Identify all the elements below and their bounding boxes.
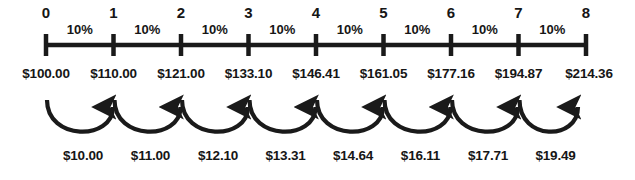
balance-label-1: $110.00 — [90, 66, 137, 81]
growth-arrow-3 — [182, 100, 248, 132]
rate-label-5: 10% — [337, 22, 363, 37]
interest-label-1: $10.00 — [63, 148, 103, 163]
interest-label-3: $12.10 — [198, 148, 238, 163]
year-label-3: 3 — [244, 4, 253, 21]
growth-arrow-6 — [385, 100, 451, 132]
rate-label-4: 10% — [269, 22, 295, 37]
rate-label-8: 10% — [539, 22, 565, 37]
rate-label-1: 10% — [67, 22, 93, 37]
rate-label-6: 10% — [404, 22, 430, 37]
year-label-1: 1 — [109, 4, 118, 21]
year-label-0: 0 — [42, 4, 51, 21]
balance-label-0: $100.00 — [22, 66, 69, 81]
year-label-7: 7 — [514, 4, 523, 21]
interest-label-7: $17.71 — [468, 148, 508, 163]
growth-arrow-7 — [452, 100, 518, 132]
growth-arrows — [47, 100, 578, 132]
interest-label-2: $11.00 — [131, 148, 170, 163]
balance-label-8: $214.36 — [565, 66, 612, 81]
rate-label-3: 10% — [202, 22, 228, 37]
rate-label-7: 10% — [472, 22, 498, 37]
growth-arrow-8 — [520, 100, 579, 132]
balance-label-2: $121.00 — [157, 66, 204, 81]
balance-label-6: $177.16 — [427, 66, 474, 81]
balance-label-3: $133.10 — [225, 66, 272, 81]
balance-label-4: $146.41 — [292, 66, 339, 81]
balance-label-5: $161.05 — [360, 66, 407, 81]
balance-label-7: $194.87 — [495, 66, 542, 81]
year-label-8: 8 — [582, 4, 591, 21]
rate-label-2: 10% — [134, 22, 160, 37]
year-label-4: 4 — [312, 4, 321, 21]
growth-arrow-2 — [115, 100, 181, 132]
interest-label-5: $14.64 — [333, 148, 373, 163]
interest-label-4: $13.31 — [265, 148, 305, 163]
growth-arrow-5 — [317, 100, 383, 132]
growth-arrow-1 — [47, 100, 113, 132]
interest-label-6: $16.11 — [401, 148, 440, 163]
year-label-5: 5 — [379, 4, 388, 21]
year-label-6: 6 — [447, 4, 456, 21]
growth-arrow-4 — [250, 100, 316, 132]
year-label-2: 2 — [177, 4, 186, 21]
interest-label-8: $19.49 — [535, 148, 575, 163]
compound-interest-number-line: 0 1 2 3 4 5 6 7 8 10% 10% 10% 10% 10% 10… — [0, 0, 635, 180]
